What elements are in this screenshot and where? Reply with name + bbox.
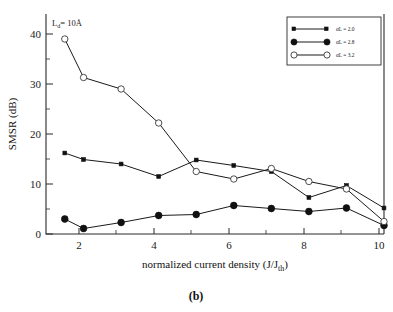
data-point [80, 225, 87, 232]
y-tick-label-10: 10 [30, 178, 42, 190]
x-tick-label-4: 4 [151, 239, 157, 251]
ld-annotation: Ld= 10Å [52, 18, 83, 29]
legend-marker-open-circle [291, 52, 297, 58]
x-tick-label-6: 6 [226, 239, 232, 251]
data-point [157, 175, 161, 179]
data-point [268, 165, 274, 171]
data-point [194, 158, 198, 162]
x-axis-title-tail: ) [284, 258, 288, 271]
data-point [82, 158, 86, 162]
chart-legend: αL = 2.0 αL = 2.8 αL = 3.2 [287, 17, 381, 65]
legend-marker-filled-circle [291, 39, 297, 45]
legend-label-1: αL = 2.8 [336, 39, 355, 45]
data-point [343, 205, 350, 212]
x-tick-label-2: 2 [76, 239, 82, 251]
figure-caption: (b) [189, 289, 204, 303]
data-point [80, 74, 86, 80]
x-tick-label-10: 10 [374, 239, 386, 251]
y-tick-label-40: 40 [30, 28, 42, 40]
figure-panel: 0 10 20 30 40 2 4 6 8 10 SMSR (dB) [0, 0, 393, 312]
data-point [305, 208, 312, 215]
y-tick-label-0: 0 [36, 228, 42, 240]
data-point [118, 86, 124, 92]
data-point [155, 120, 161, 126]
data-point [381, 218, 387, 224]
data-point [307, 196, 311, 200]
legend-box [287, 17, 381, 65]
legend-label-0: αL = 2.0 [336, 26, 355, 32]
ld-annotation-unit: Å [76, 18, 83, 28]
legend-marker-filled-circle-end [324, 39, 330, 45]
y-tick-label-30: 30 [30, 78, 42, 90]
legend-marker-open-circle-end [324, 52, 330, 58]
data-point [193, 168, 199, 174]
data-point [155, 212, 162, 219]
legend-label-2: αL = 3.2 [336, 52, 355, 58]
data-point [232, 164, 236, 168]
smsr-vs-current-density-chart: 0 10 20 30 40 2 4 6 8 10 SMSR (dB) [0, 0, 393, 312]
data-point [268, 205, 275, 212]
ld-annotation-equals: = 10 [60, 18, 75, 28]
data-point [119, 162, 123, 166]
data-point [193, 211, 200, 218]
data-point [306, 178, 312, 184]
data-point [118, 219, 125, 226]
data-point [231, 176, 237, 182]
data-point [230, 202, 237, 209]
legend-marker-filled-square [292, 27, 296, 31]
legend-marker-filled-square-end [325, 27, 329, 31]
x-axis-title-main: normalized current density (J/J [142, 258, 279, 271]
data-point [382, 206, 386, 210]
y-axis-title: SMSR (dB) [6, 98, 19, 151]
data-point [61, 216, 68, 223]
data-point [343, 186, 349, 192]
data-point [62, 36, 68, 42]
x-tick-label-8: 8 [301, 239, 307, 251]
data-point [63, 151, 67, 155]
y-tick-label-20: 20 [30, 128, 42, 140]
